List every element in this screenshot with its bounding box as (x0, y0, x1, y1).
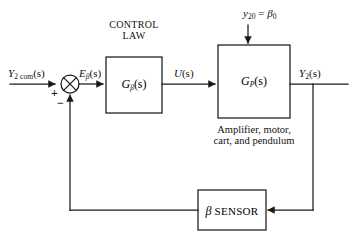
control-signal-base: U (174, 67, 182, 79)
reference-input-label: Y2 com(s) (8, 68, 45, 81)
control-signal-label: U(s) (174, 68, 194, 80)
output-tail: (s) (309, 67, 321, 79)
sensor-block-label: β SENSOR (198, 190, 266, 230)
block-diagram-canvas: Y2 com(s) + − Eβ(s) CONTROL LAW Gβ(s) U(… (0, 0, 353, 245)
plant-label-base: G (241, 74, 250, 88)
controller-caption-line1: CONTROL (102, 20, 166, 31)
diagram-lines (0, 0, 353, 245)
error-signal-base: E (79, 67, 86, 79)
disturbance-subscript: 20 (248, 12, 256, 21)
controller-label-tail: (s) (134, 77, 147, 91)
controller-caption: CONTROL LAW (102, 20, 166, 41)
controller-block-label: Gβ(s) (106, 57, 162, 113)
error-signal-tail: (s) (89, 67, 101, 79)
sensor-label-text: SENSOR (211, 205, 258, 217)
disturbance-equals: = (256, 7, 268, 19)
plant-caption-line1: Amplifier, motor, (196, 124, 312, 135)
control-signal-tail: (s) (182, 67, 194, 79)
reference-input-subscript: 2 com (14, 72, 33, 81)
controller-caption-line2: LAW (102, 31, 166, 42)
plant-block-label: GP(s) (218, 45, 290, 118)
reference-input-tail: (s) (33, 67, 45, 79)
plant-caption-line2: cart, and pendulum (196, 135, 312, 146)
disturbance-beta-subscript: 0 (273, 12, 277, 21)
plant-caption: Amplifier, motor, cart, and pendulum (196, 124, 312, 146)
controller-label-base: G (121, 77, 130, 91)
summing-minus-sign: − (57, 97, 64, 110)
disturbance-label: y20 = β0 (243, 8, 277, 21)
plant-label-tail: (s) (254, 74, 267, 88)
output-label: Y2(s) (299, 68, 321, 81)
error-signal-label: Eβ(s) (79, 68, 101, 81)
